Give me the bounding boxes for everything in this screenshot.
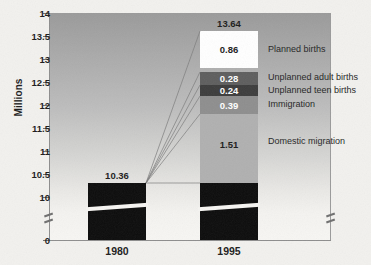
- segment-value-unplanned-teen-births: 0.24: [200, 85, 258, 96]
- y-ticklabel-13p5: 13.5: [8, 31, 50, 42]
- bar-1980: [88, 183, 146, 240]
- segment-unplanned-adult-births: 0.28: [200, 72, 258, 85]
- segment-unplanned-teen-births: 0.24: [200, 85, 258, 96]
- y-ticklabel-10p5: 10.5: [8, 169, 50, 180]
- segment-label-unplanned-teen-births: Unplanned teen births: [268, 85, 356, 95]
- segment-value-unplanned-adult-births: 0.28: [200, 73, 258, 84]
- y-ticklabel-12p5: 12.5: [8, 77, 50, 88]
- y-ticklabel-11: 11: [8, 146, 50, 157]
- bar-1995-base: [200, 183, 258, 240]
- y-axis-ticks: 14 13.5 13 12.5 12 11.5 11 10.5 10 0: [0, 0, 50, 265]
- x-axis-label-1995: 1995: [189, 245, 269, 257]
- bar-1980-total-label: 10.36: [88, 170, 146, 181]
- y-ticklabel-14: 14: [8, 8, 50, 19]
- y-ticklabel-11p5: 11.5: [8, 123, 50, 134]
- segment-domestic-migration: 1.51: [200, 114, 258, 183]
- segment-label-immigration: Immigration: [268, 99, 315, 109]
- bar-1995-total-label: 13.64: [200, 18, 258, 29]
- segment-value-immigration: 0.39: [200, 100, 258, 111]
- y-ticklabel-12: 12: [8, 100, 50, 111]
- segment-value-planned-births: 0.86: [200, 44, 258, 55]
- segment-planned-births: 0.86: [200, 31, 258, 68]
- right-axis-line: [330, 13, 331, 241]
- x-axis-line: [49, 240, 331, 241]
- y-ticklabel-0: 0: [8, 235, 50, 246]
- y-ticklabel-10: 10: [8, 192, 50, 203]
- segment-immigration: 0.39: [200, 96, 258, 114]
- segment-label-domestic-migration: Domestic migration: [268, 136, 345, 146]
- y-ticklabel-13: 13: [8, 54, 50, 65]
- x-axis-label-1980: 1980: [77, 245, 157, 257]
- segment-label-planned-births: Planned births: [268, 44, 326, 54]
- segment-value-domestic-migration: 1.51: [200, 139, 258, 150]
- segment-label-unplanned-adult-births: Unplanned adult births: [268, 72, 358, 82]
